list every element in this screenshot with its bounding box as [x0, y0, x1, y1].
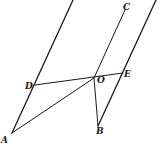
segment-DE: [35, 73, 123, 85]
label-D: D: [24, 81, 33, 91]
label-B: B: [95, 126, 104, 136]
label-E: E: [123, 69, 131, 79]
label-A: A: [0, 135, 8, 145]
line-OC: [94, 10, 125, 78]
label-O: O: [97, 75, 105, 85]
label-C: C: [123, 2, 131, 12]
geometry-diagram: A B C D O E: [0, 0, 168, 152]
right-parallel-line: [98, 0, 156, 126]
segment-OB: [94, 78, 98, 126]
